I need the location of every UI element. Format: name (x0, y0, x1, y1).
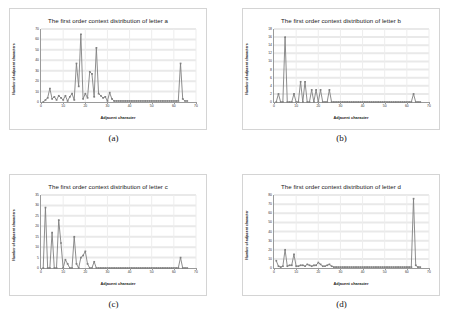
x-tick-mark (274, 102, 275, 104)
y-tick-mark (40, 237, 42, 238)
chart-title-b: The first order context distribution of … (243, 17, 439, 24)
y-tick-label: 10 (268, 59, 272, 63)
y-tick-mark (273, 29, 275, 30)
x-tick-mark (196, 102, 197, 104)
y-tick-label: 10 (35, 245, 39, 249)
y-tick-mark (40, 92, 42, 93)
x-tick-mark (318, 102, 319, 104)
plot-area-d: 01020304050607080010203040506070 (273, 195, 429, 269)
y-tick-label: 10 (35, 90, 39, 94)
y-tick-mark (40, 60, 42, 61)
x-tick-label: 10 (294, 270, 298, 274)
x-tick-mark (152, 102, 153, 104)
y-tick-mark (273, 250, 275, 251)
x-tick-label: 70 (427, 270, 431, 274)
y-tick-mark (40, 39, 42, 40)
x-tick-label: 40 (361, 104, 365, 108)
x-tick-label: 40 (128, 270, 132, 274)
y-tick-label: 20 (35, 224, 39, 228)
x-tick-label: 50 (150, 104, 154, 108)
x-tick-mark (296, 268, 297, 270)
y-tick-label: 80 (268, 193, 272, 197)
x-tick-label: 30 (339, 104, 343, 108)
y-tick-mark (273, 94, 275, 95)
panel-c: The first order context distribution of … (0, 160, 227, 320)
x-tick-label: 0 (273, 270, 275, 274)
x-tick-mark (130, 102, 131, 104)
x-tick-mark (340, 102, 341, 104)
x-tick-mark (363, 102, 364, 104)
x-tick-mark (385, 102, 386, 104)
x-axis-label-c: Adjacent character (40, 281, 196, 286)
x-tick-label: 70 (427, 104, 431, 108)
y-tick-mark (273, 241, 275, 242)
x-tick-label: 20 (83, 270, 87, 274)
x-tick-mark (429, 268, 430, 270)
x-tick-label: 70 (194, 104, 198, 108)
x-tick-mark (296, 102, 297, 104)
y-tick-mark (273, 61, 275, 62)
x-tick-label: 20 (316, 104, 320, 108)
y-axis-label-b: Number of adjacent characters (245, 0, 249, 31)
y-tick-mark (273, 86, 275, 87)
x-tick-label: 50 (150, 270, 154, 274)
x-tick-label: 60 (172, 270, 176, 274)
x-tick-label: 30 (339, 270, 343, 274)
chart-frame-b: The first order context distribution of … (242, 8, 440, 130)
x-tick-mark (152, 268, 153, 270)
y-tick-label: 20 (268, 248, 272, 252)
figure-sheet: The first order context distribution of … (0, 0, 455, 321)
x-tick-label: 0 (40, 270, 42, 274)
y-tick-mark (40, 247, 42, 248)
plot-area-c: 05101520253035010203040506070 (40, 195, 196, 269)
x-axis-label-d: Adjacent character (273, 281, 429, 286)
x-tick-mark (85, 102, 86, 104)
y-tick-label: 70 (35, 27, 39, 31)
x-tick-label: 20 (316, 270, 320, 274)
y-tick-label: 14 (268, 43, 272, 47)
x-tick-mark (340, 268, 341, 270)
y-tick-mark (40, 258, 42, 259)
y-tick-mark (40, 205, 42, 206)
y-tick-mark (273, 195, 275, 196)
y-tick-mark (273, 232, 275, 233)
plot-area-a: 010203040506070010203040506070 (40, 29, 196, 103)
x-tick-mark (63, 102, 64, 104)
y-axis-label-a: Number of adjacent characters (12, 0, 16, 31)
x-tick-mark (407, 268, 408, 270)
chart-title-a: The first order context distribution of … (10, 17, 206, 24)
x-tick-mark (107, 268, 108, 270)
panel-caption-a: (a) (0, 133, 227, 143)
y-tick-mark (40, 216, 42, 217)
x-tick-mark (363, 268, 364, 270)
x-tick-mark (429, 102, 430, 104)
x-tick-label: 10 (294, 104, 298, 108)
x-tick-label: 10 (61, 104, 65, 108)
x-tick-label: 20 (83, 104, 87, 108)
panel-caption-b: (b) (228, 133, 455, 143)
y-tick-label: 70 (268, 202, 272, 206)
y-tick-label: 30 (35, 203, 39, 207)
y-axis-label-c: Number of adjacent characters (12, 121, 16, 197)
y-tick-mark (273, 70, 275, 71)
x-tick-label: 40 (361, 270, 365, 274)
x-tick-label: 70 (194, 270, 198, 274)
x-tick-label: 40 (128, 104, 132, 108)
y-tick-mark (273, 259, 275, 260)
y-tick-mark (40, 29, 42, 30)
x-tick-mark (196, 268, 197, 270)
chart-frame-a: The first order context distribution of … (9, 8, 207, 130)
chart-title-d: The first order context distribution of … (243, 183, 439, 190)
x-tick-mark (174, 268, 175, 270)
x-tick-label: 60 (172, 104, 176, 108)
panel-b: The first order context distribution of … (228, 0, 455, 160)
panel-d: The first order context distribution of … (228, 160, 455, 320)
x-axis-label-b: Adjacent character (273, 115, 429, 120)
x-axis-label-a: Adjacent character (40, 115, 196, 120)
y-tick-mark (273, 37, 275, 38)
y-tick-label: 35 (35, 193, 39, 197)
x-tick-mark (85, 268, 86, 270)
panel-a: The first order context distribution of … (0, 0, 227, 160)
chart-frame-c: The first order context distribution of … (9, 174, 207, 296)
x-tick-label: 60 (405, 270, 409, 274)
